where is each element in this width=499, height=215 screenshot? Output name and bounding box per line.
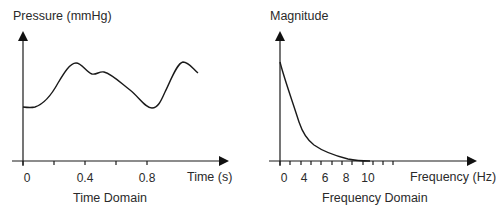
- freq-y-axis-label: Magnitude: [270, 10, 328, 23]
- freq-tick-label: 10: [361, 172, 374, 184]
- time-domain-axes: [12, 40, 222, 166]
- time-tick-label: 0: [24, 172, 31, 184]
- freq-tick-label: 6: [322, 172, 329, 184]
- freq-tick-label: 8: [343, 172, 350, 184]
- pressure-waveform-line: [23, 62, 198, 108]
- freq-x-axis-label: Frequency (Hz): [410, 171, 496, 184]
- frequency-domain-axes: [269, 40, 470, 166]
- frequency-domain-title: Frequency Domain: [322, 192, 428, 205]
- time-tick-label: 0.4: [77, 172, 94, 184]
- time-x-arrow-icon: [219, 156, 229, 166]
- freq-tick-label: 4: [301, 172, 308, 184]
- magnitude-spectrum-line: [280, 62, 370, 161]
- time-y-arrow-icon: [18, 31, 28, 41]
- time-x-axis-label: Time (s): [187, 171, 232, 184]
- time-tick-label: 0.8: [139, 172, 156, 184]
- freq-x-arrow-icon: [467, 156, 477, 166]
- time-domain-title: Time Domain: [73, 192, 147, 205]
- time-y-axis-label: Pressure (mmHg): [13, 10, 112, 23]
- freq-y-arrow-icon: [275, 31, 285, 41]
- freq-tick-label: 0: [281, 172, 288, 184]
